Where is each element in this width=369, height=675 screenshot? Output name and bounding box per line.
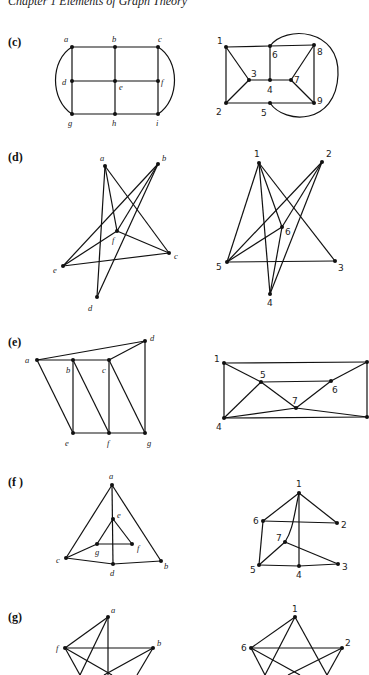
- node-label-4: 4: [267, 85, 273, 95]
- node-label-1: 1: [296, 479, 302, 489]
- node-label-g: g: [147, 438, 151, 448]
- node-label-e: e: [117, 510, 121, 520]
- node-label-f: f: [56, 643, 60, 653]
- node-label-a: a: [111, 605, 115, 615]
- node-label-f: f: [161, 77, 165, 87]
- node-label-c: c: [158, 34, 162, 44]
- node-label-2: 2: [345, 638, 351, 648]
- node-label-9: 9: [317, 96, 323, 106]
- node-label-6: 6: [241, 643, 247, 653]
- node-label-f: f: [137, 543, 141, 553]
- node-label-i: i: [156, 118, 159, 128]
- node-label-c: c: [174, 251, 178, 261]
- node-label-a: a: [25, 355, 29, 365]
- node-label-3: 3: [251, 69, 257, 79]
- node-label-g: g: [95, 547, 99, 557]
- node-label-a: a: [109, 471, 113, 481]
- graph-c-left: a b c d e f g h i: [56, 34, 175, 128]
- node-label-b: b: [162, 153, 166, 163]
- node-label-5: 5: [260, 370, 266, 380]
- node-label-e: e: [53, 265, 57, 275]
- graph-d-left: a b c d e f: [53, 153, 178, 313]
- node-label-g: g: [68, 118, 72, 128]
- graph-g-right: 1 6 2: [241, 604, 351, 675]
- node-label-d: d: [62, 77, 67, 87]
- node-label-b: b: [164, 561, 168, 571]
- node-label-e: e: [119, 82, 123, 92]
- node-label-2: 2: [326, 149, 332, 159]
- node-label-f: f: [107, 438, 111, 448]
- graph-f-right: 1 2 3 4 5 6 7: [250, 479, 348, 580]
- node-label-4: 4: [296, 570, 302, 580]
- node-label-6: 6: [332, 385, 338, 395]
- node-label-6: 6: [272, 50, 278, 60]
- node-label-1: 1: [292, 604, 298, 614]
- graph-e-right: 1 4 5 6 7: [214, 354, 369, 432]
- node-label-2: 2: [341, 520, 347, 530]
- node-label-7: 7: [292, 396, 298, 406]
- node-label-d: d: [150, 333, 155, 343]
- graph-g-left: a f b: [56, 605, 161, 675]
- node-label-7: 7: [294, 75, 300, 85]
- figure-canvas: a b c d e f g h i 1 2 3 4 5 6 7 8 9: [0, 0, 369, 675]
- node-label-4: 4: [216, 422, 222, 432]
- node-label-1: 1: [254, 149, 260, 159]
- node-label-c: c: [102, 365, 106, 375]
- node-label-7: 7: [276, 533, 282, 543]
- node-label-a: a: [100, 153, 104, 163]
- node-label-6: 6: [285, 227, 291, 237]
- node-label-h: h: [112, 118, 116, 128]
- node-label-d: d: [110, 568, 115, 578]
- graph-e-left: a b c d e f g: [25, 333, 155, 448]
- node-label-f: f: [112, 235, 116, 245]
- node-label-1: 1: [217, 36, 223, 46]
- node-label-8: 8: [317, 47, 323, 57]
- node-label-1: 1: [214, 354, 220, 364]
- graph-d-right: 1 2 3 4 5 6: [216, 149, 344, 308]
- node-label-d: d: [88, 303, 93, 313]
- node-label-4: 4: [267, 298, 273, 308]
- node-label-3: 3: [338, 263, 344, 273]
- node-label-e: e: [65, 438, 69, 448]
- node-label-5: 5: [261, 108, 267, 118]
- node-label-a: a: [64, 34, 68, 44]
- node-label-2: 2: [216, 107, 222, 117]
- node-label-b: b: [112, 34, 116, 44]
- node-label-b: b: [157, 638, 161, 648]
- node-label-5: 5: [250, 565, 256, 575]
- node-label-6: 6: [253, 516, 259, 526]
- node-label-c: c: [56, 555, 60, 565]
- node-label-5: 5: [216, 262, 222, 272]
- graph-c-right: 1 2 3 4 5 6 7 8 9: [216, 34, 338, 118]
- node-label-3: 3: [342, 562, 348, 572]
- node-label-b: b: [66, 365, 70, 375]
- graph-f-left: a b c d e f g: [56, 471, 168, 578]
